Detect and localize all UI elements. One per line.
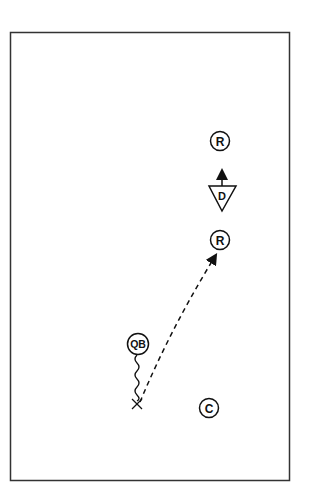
center: C — [200, 399, 219, 418]
play-diagram: R D R QB C — [0, 0, 309, 499]
receiver-deep: R — [211, 132, 230, 151]
receiver-short: R — [211, 231, 230, 250]
quarterback-label: QB — [130, 338, 146, 350]
receiver-short-label: R — [216, 234, 225, 248]
pass-route — [140, 258, 214, 402]
qb-dropback-route — [135, 355, 139, 401]
receiver-deep-label: R — [216, 135, 225, 149]
defender: D — [209, 174, 236, 211]
quarterback: QB — [128, 334, 149, 355]
defender-label: D — [218, 190, 226, 202]
center-label: C — [205, 402, 214, 416]
field-frame — [11, 33, 290, 481]
